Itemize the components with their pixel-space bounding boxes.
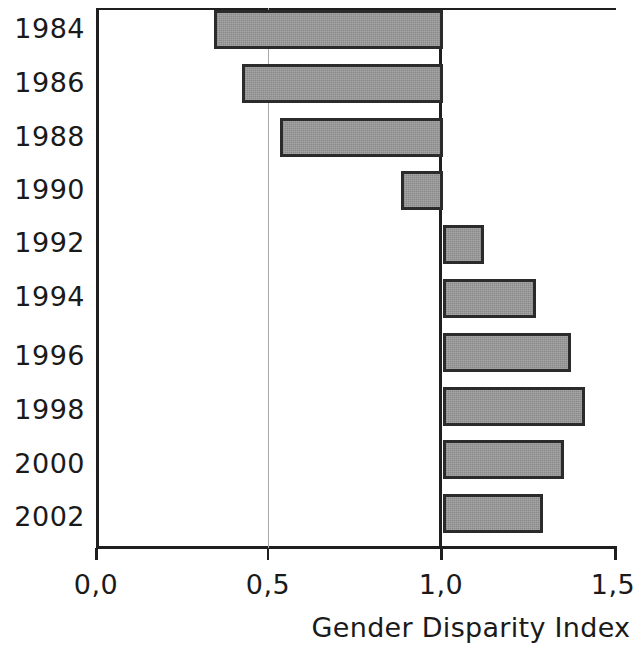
x-tick-0-0 xyxy=(95,548,98,560)
bar-2002 xyxy=(443,494,544,533)
gender-disparity-index-chart: 1984 1986 1988 1990 1992 1994 1996 1998 … xyxy=(0,0,636,650)
y-axis-label-2002: 2002 xyxy=(0,503,85,530)
bar-1984 xyxy=(214,10,443,49)
x-axis-label-1-5: 1,5 xyxy=(553,570,636,600)
x-axis-label-0-0: 0,0 xyxy=(36,570,156,600)
y-axis-label-1996: 1996 xyxy=(0,342,85,369)
x-axis-label-1-0: 1,0 xyxy=(381,570,501,600)
y-axis-label-1986: 1986 xyxy=(0,69,85,96)
bar-1992 xyxy=(443,225,485,264)
x-axis-label-0-5: 0,5 xyxy=(208,570,328,600)
bar-1996 xyxy=(443,333,571,372)
x-axis-line xyxy=(96,546,617,549)
x-tick-0-5 xyxy=(267,548,269,560)
bar-1990 xyxy=(401,171,443,210)
bar-1994 xyxy=(443,279,537,318)
y-axis-label-2000: 2000 xyxy=(0,450,85,477)
bar-1998 xyxy=(443,387,585,426)
y-axis-label-1992: 1992 xyxy=(0,229,85,256)
y-axis-label-1984: 1984 xyxy=(0,15,85,42)
y-axis-label-1998: 1998 xyxy=(0,396,85,423)
bar-1986 xyxy=(242,64,443,103)
x-tick-1-5 xyxy=(614,548,617,560)
bar-1988 xyxy=(280,118,443,157)
x-axis-title: Gender Disparity Index xyxy=(306,612,636,644)
y-axis-label-1990: 1990 xyxy=(0,176,85,203)
y-axis-label-1988: 1988 xyxy=(0,123,85,150)
bar-2000 xyxy=(443,440,564,479)
x-tick-1-0 xyxy=(440,548,443,560)
y-axis-label-1994: 1994 xyxy=(0,283,85,310)
